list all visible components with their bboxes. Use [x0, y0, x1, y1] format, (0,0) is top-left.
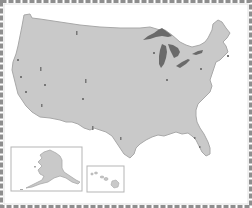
island-kauai	[91, 173, 93, 175]
aleutian-islands	[20, 189, 23, 190]
island-maui	[104, 178, 108, 181]
alaska-inset	[11, 147, 82, 191]
us-map	[0, 0, 252, 208]
city-marker-icon	[199, 146, 201, 148]
city-marker-icon	[40, 67, 42, 71]
city-marker-icon	[194, 137, 196, 139]
hawaii-inset	[87, 166, 124, 192]
city-marker-icon	[25, 91, 27, 93]
city-marker-icon	[120, 137, 122, 140]
city-marker-icon	[166, 79, 168, 81]
map-frame	[0, 0, 252, 208]
island-molokai	[100, 176, 104, 178]
city-marker-icon	[20, 76, 22, 78]
city-marker-icon	[200, 68, 202, 70]
alaska-island	[34, 166, 36, 168]
city-marker-icon	[41, 104, 43, 107]
city-marker-icon	[92, 126, 94, 130]
city-marker-icon	[227, 55, 229, 57]
city-marker-icon	[85, 79, 87, 83]
city-marker-icon	[82, 98, 84, 100]
city-marker-icon	[76, 31, 78, 35]
city-marker-icon	[17, 59, 19, 61]
city-marker-icon	[44, 84, 46, 86]
city-marker-icon	[153, 52, 155, 54]
island-oahu	[95, 172, 98, 174]
